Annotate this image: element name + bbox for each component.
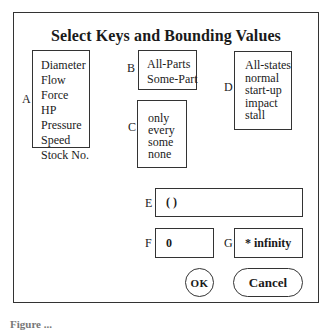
field-f-label: F bbox=[145, 236, 152, 251]
list-b-label: B bbox=[127, 61, 135, 76]
list-item[interactable]: All-Parts bbox=[147, 57, 196, 72]
list-b-parts[interactable]: All-Parts Some-Part bbox=[138, 50, 197, 90]
list-item[interactable]: Flow bbox=[41, 73, 89, 88]
figure-caption: Figure ... bbox=[10, 318, 52, 330]
list-item[interactable]: Speed bbox=[41, 133, 89, 148]
list-item[interactable]: All-states bbox=[245, 59, 291, 72]
list-item[interactable]: start-up bbox=[245, 84, 291, 97]
list-item[interactable]: Pressure bbox=[41, 118, 89, 133]
list-a-label: A bbox=[22, 92, 31, 107]
list-item[interactable]: stall bbox=[245, 109, 291, 122]
list-a-keys[interactable]: Diameter Flow Force HP Pressure Speed St… bbox=[32, 50, 90, 148]
list-item[interactable]: Force bbox=[41, 88, 89, 103]
field-g-label: G bbox=[224, 236, 233, 251]
field-f-lower-bound[interactable]: 0 bbox=[155, 228, 214, 258]
list-d-label: D bbox=[224, 80, 233, 95]
list-item[interactable]: Stock No. bbox=[41, 148, 89, 163]
cancel-button[interactable]: Cancel bbox=[233, 268, 303, 297]
field-g-upper-bound[interactable]: * infinity bbox=[234, 228, 303, 258]
list-c-label: C bbox=[128, 120, 136, 135]
field-e-input[interactable]: ( ) bbox=[155, 188, 303, 217]
field-g-value: * infinity bbox=[245, 236, 291, 251]
list-d-states[interactable]: All-states normal start-up impact stall bbox=[234, 51, 292, 130]
ok-button[interactable]: OK bbox=[185, 268, 214, 297]
dialog-title: Select Keys and Bounding Values bbox=[14, 27, 318, 45]
list-item[interactable]: Some-Part bbox=[147, 72, 196, 87]
field-e-value: ( ) bbox=[166, 195, 177, 210]
field-f-value: 0 bbox=[166, 236, 172, 251]
list-item[interactable]: Diameter bbox=[41, 58, 89, 73]
field-e-label: E bbox=[145, 196, 152, 211]
list-item[interactable]: HP bbox=[41, 103, 89, 118]
list-c-quantifier[interactable]: only every some none bbox=[137, 100, 187, 168]
list-item[interactable]: none bbox=[148, 148, 186, 160]
